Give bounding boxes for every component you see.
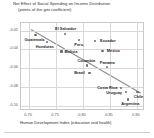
y-axis-tick-labels: -0.02-0.04-0.06-0.08-0.10 (0, 22, 18, 110)
y-tick--0.04: -0.04 (9, 46, 18, 50)
gridline-vertical-0.75 (56, 23, 57, 109)
gridline-horizontal--0.08 (21, 87, 143, 88)
footer-divider (4, 132, 150, 133)
point-label-chile: Chile (134, 94, 144, 98)
point-label-mexico: Mexico (107, 49, 120, 53)
y-tick--0.06: -0.06 (9, 65, 18, 69)
x-tick-0.75: 0.75 (51, 113, 59, 117)
gridline-horizontal--0.04 (21, 49, 143, 50)
point-label-colombia: Colombia (77, 59, 95, 63)
point-label-guatemala: Guatemala (25, 38, 45, 42)
x-tick-0.90: 0.90 (132, 113, 140, 117)
point-label-uruguay: Uruguay (106, 91, 122, 95)
data-point-mexico (101, 50, 103, 52)
y-tick--0.08: -0.08 (9, 84, 18, 88)
point-label-peru: Peru (74, 43, 83, 47)
point-label-bolivia: Bolivia (65, 49, 78, 53)
plot-area: GuatemalaHondurasEl SalvadorPeruEcuadorB… (20, 22, 144, 110)
gridline-horizontal--0.02 (21, 31, 143, 32)
data-point-bolivia (60, 50, 62, 52)
data-point-guatemala (34, 34, 36, 36)
point-label-ecuador: Ecuador (100, 39, 116, 43)
data-point-el-salvador (64, 33, 66, 35)
x-tick-0.70: 0.70 (24, 113, 32, 117)
point-label-panama: Panama (100, 61, 115, 65)
point-label-brazil: Brazil (74, 71, 85, 75)
chart-figure: Net Effect of Social Spending on Income … (0, 0, 154, 138)
point-label-el-salvador: El Salvador (55, 27, 76, 31)
gridline-vertical-0.85 (110, 23, 111, 109)
x-axis-tick-labels: 0.700.750.800.850.90 (20, 113, 144, 119)
point-label-argentina: Argentina (121, 102, 139, 106)
point-label-honduras: Honduras (36, 44, 54, 48)
x-tick-0.80: 0.80 (78, 113, 86, 117)
data-point-brazil (88, 72, 90, 74)
data-point-chile (136, 91, 138, 93)
chart-subtitle: (points of the gini coefficient) (13, 7, 151, 13)
chart-title-block: Net Effect of Social Spending on Income … (13, 1, 151, 13)
x-axis-title: Human Development Index (education and h… (20, 120, 154, 125)
gridline-vertical-0.80 (83, 23, 84, 109)
y-tick--0.02: -0.02 (9, 28, 18, 32)
gridline-horizontal--0.10 (21, 106, 143, 107)
gridline-horizontal--0.06 (21, 68, 143, 69)
x-tick-0.85: 0.85 (105, 113, 113, 117)
y-tick--0.10: -0.10 (9, 103, 18, 107)
